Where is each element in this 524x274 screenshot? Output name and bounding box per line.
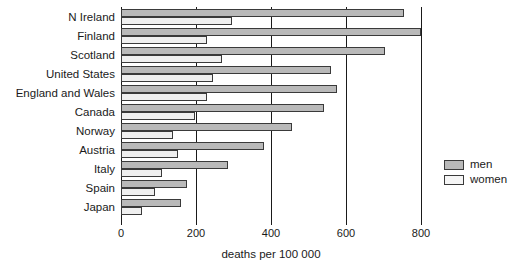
x-tick-label-0: 0 [101, 227, 141, 240]
bar-chart: 0200400600800 N IrelandFinlandScotlandUn… [0, 0, 524, 274]
legend-swatch-women-icon [444, 175, 464, 185]
x-tick-600 [346, 219, 347, 225]
x-tick-label-400: 400 [251, 227, 291, 240]
bar-men [121, 85, 337, 93]
bar-row: N Ireland [0, 8, 524, 27]
category-label: Canada [0, 103, 115, 122]
bar-men [121, 123, 292, 131]
bar-women [121, 150, 178, 158]
chart-legend: men women [444, 157, 520, 187]
x-tick-400 [271, 219, 272, 225]
bar-women [121, 207, 142, 215]
bar-women [121, 169, 162, 177]
bar-men [121, 161, 228, 169]
category-label: Japan [0, 198, 115, 217]
category-label: Norway [0, 122, 115, 141]
x-tick-200 [196, 219, 197, 225]
bar-row: Canada [0, 103, 524, 122]
bar-men [121, 47, 385, 55]
bar-row: Scotland [0, 46, 524, 65]
legend-swatch-men-icon [444, 160, 464, 170]
legend-label-women: women [470, 173, 507, 186]
category-label: Austria [0, 141, 115, 160]
bar-women [121, 74, 213, 82]
legend-item-men: men [444, 157, 520, 172]
x-tick-label-200: 200 [176, 227, 216, 240]
bar-women [121, 55, 222, 63]
bar-row: Finland [0, 27, 524, 46]
category-label: England and Wales [0, 84, 115, 103]
category-label: Italy [0, 160, 115, 179]
bar-men [121, 104, 324, 112]
bar-row: Norway [0, 122, 524, 141]
category-label: N Ireland [0, 8, 115, 27]
bar-women [121, 93, 207, 101]
bar-row: United States [0, 65, 524, 84]
x-tick-label-600: 600 [326, 227, 366, 240]
bar-men [121, 28, 421, 36]
bar-row: Japan [0, 198, 524, 217]
bar-row: England and Wales [0, 84, 524, 103]
bar-women [121, 112, 195, 120]
bar-men [121, 142, 264, 150]
x-tick-800 [421, 219, 422, 225]
bar-women [121, 17, 232, 25]
bar-women [121, 36, 207, 44]
category-label: Finland [0, 27, 115, 46]
bar-men [121, 199, 181, 207]
bar-women [121, 188, 155, 196]
category-label: Scotland [0, 46, 115, 65]
legend-item-women: women [444, 172, 520, 187]
legend-label-men: men [470, 158, 492, 171]
x-tick-0 [121, 219, 122, 225]
x-tick-label-800: 800 [401, 227, 441, 240]
x-axis-title: deaths per 100 000 [121, 248, 421, 260]
bar-men [121, 66, 331, 74]
category-label: United States [0, 65, 115, 84]
bar-men [121, 9, 404, 17]
bar-women [121, 131, 173, 139]
category-label: Spain [0, 179, 115, 198]
bar-men [121, 180, 187, 188]
